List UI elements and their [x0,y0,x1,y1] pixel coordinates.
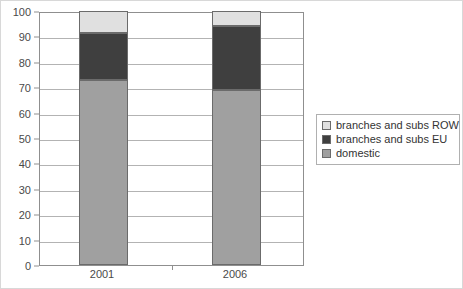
legend-swatch-icon [322,149,331,158]
legend-label: domestic [336,147,380,159]
bar-2001 [79,11,128,265]
legend-swatch-icon [322,121,331,130]
bar-segment-domestic [79,80,128,265]
legend-item: branches and subs EU [322,133,454,145]
legend-label: branches and subs ROW [336,119,459,131]
y-axis: 0102030405060708090100 [1,1,39,289]
y-tick-label: 30 [19,184,31,195]
y-tick-label: 10 [19,235,31,246]
y-tick-label: 0 [25,261,31,272]
bar-segment-branches-and-subs-EU [79,33,128,80]
legend-swatch-icon [322,135,331,144]
y-tick-label: 40 [19,159,31,170]
bar-segment-branches-and-subs-EU [212,26,261,90]
x-tick-mark [172,266,173,270]
bar-segment-branches-and-subs-ROW [79,11,128,33]
y-tick-label: 70 [19,83,31,94]
y-tick-label: 20 [19,210,31,221]
legend-item: domestic [322,147,454,159]
y-tick-label: 80 [19,57,31,68]
y-tick-label: 50 [19,134,31,145]
plot-area [39,12,304,266]
bar-2006 [212,11,261,265]
x-tick-label: 2006 [223,269,247,280]
y-tick-label: 100 [13,7,31,18]
legend-item: branches and subs ROW [322,119,454,131]
x-tick-label: 2001 [90,269,114,280]
legend-label: branches and subs EU [336,133,447,145]
y-tick-label: 60 [19,108,31,119]
y-tick-label: 90 [19,32,31,43]
chart-legend: branches and subs ROWbranches and subs E… [316,114,460,165]
chart-screenshot: 0102030405060708090100 20012006 branches… [0,0,463,289]
bar-segment-domestic [212,90,261,265]
bar-segment-branches-and-subs-ROW [212,11,261,26]
